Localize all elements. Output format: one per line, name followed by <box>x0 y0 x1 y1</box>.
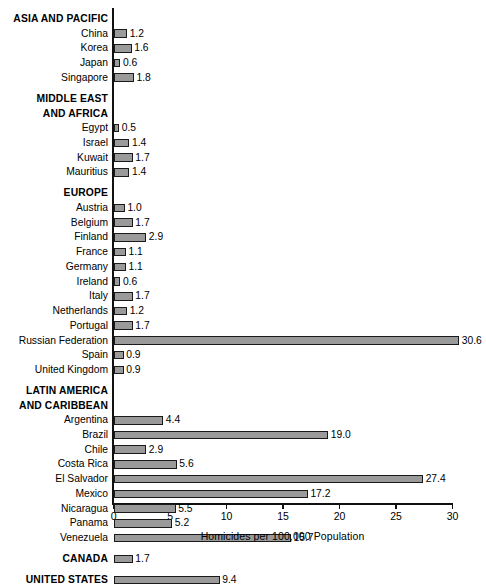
bar-value-label: 9.4 <box>222 574 236 586</box>
bar-value-label: 0.5 <box>122 122 136 134</box>
category-label: El Salvador <box>55 473 108 485</box>
bar-row: El Salvador27.4 <box>0 472 486 487</box>
bar-row: Costa Rica5.6 <box>0 457 486 472</box>
category-label: Finland <box>74 231 108 243</box>
bar-row: Netherlands1.2 <box>0 304 486 319</box>
bar-value-label: 1.7 <box>135 217 149 229</box>
group-heading: LATIN AMERICA <box>26 385 108 397</box>
bar-row: UNITED STATES9.4 <box>0 573 486 588</box>
category-label: Mauritius <box>66 166 108 178</box>
bar-value-label: 5.6 <box>179 458 193 470</box>
bar-row: Argentina4.4 <box>0 413 486 428</box>
category-label: France <box>76 246 108 258</box>
bar-value-label: 1.1 <box>129 246 143 258</box>
bar <box>114 168 130 177</box>
category-label: Germany <box>66 261 108 273</box>
bar <box>114 218 133 227</box>
bar-value-label: 2.9 <box>149 231 163 243</box>
bar-value-label: 1.7 <box>135 320 149 332</box>
category-label: Egypt <box>82 122 108 134</box>
bar-row: Russian Federation30.6 <box>0 334 486 349</box>
category-label: United Kingdom <box>35 364 108 376</box>
category-label: UNITED STATES <box>26 574 108 586</box>
bar <box>114 73 134 82</box>
bar <box>114 248 126 257</box>
bar-value-label: 1.7 <box>135 553 149 565</box>
bar <box>114 504 176 513</box>
category-label: Venezuela <box>60 532 108 544</box>
bar <box>114 204 125 213</box>
bar-value-label: 0.9 <box>126 349 140 361</box>
bar-value-label: 1.4 <box>132 166 146 178</box>
group-heading: AND AFRICA <box>43 108 108 120</box>
bar <box>114 29 128 38</box>
category-label: Brazil <box>82 429 108 441</box>
group-heading: AND CARIBBEAN <box>19 400 108 412</box>
bar <box>114 153 133 162</box>
bar-value-label: 1.1 <box>129 261 143 273</box>
bar-value-label: 1.0 <box>127 202 141 214</box>
bar <box>114 44 132 53</box>
category-label: Israel <box>83 137 108 149</box>
bar <box>114 351 124 360</box>
bar-row: Portugal1.7 <box>0 319 486 334</box>
bar-value-label: 4.4 <box>166 414 180 426</box>
bar <box>114 431 329 440</box>
category-label: China <box>81 28 108 40</box>
bar <box>114 307 128 316</box>
bar-row: CANADA1.7 <box>0 552 486 567</box>
bar-row: Korea1.6 <box>0 41 486 56</box>
category-label: Nicaragua <box>61 503 108 515</box>
bar-row: Mexico17.2 <box>0 487 486 502</box>
group-heading: EUROPE <box>64 187 108 199</box>
group-heading: MIDDLE EAST <box>37 93 108 105</box>
bar-value-label: 1.2 <box>130 305 144 317</box>
bar-row: Chile2.9 <box>0 443 486 458</box>
bar-row: Nicaragua5.5 <box>0 502 486 517</box>
category-label: Singapore <box>61 72 108 84</box>
bar-value-label: 27.4 <box>426 473 446 485</box>
x-axis-title: Homicides per 100,000 Population <box>112 530 453 542</box>
bar <box>114 366 124 375</box>
bar <box>114 124 120 133</box>
bar-row: Kuwait1.7 <box>0 151 486 166</box>
bar <box>114 292 133 301</box>
bar <box>114 519 173 528</box>
category-label: Argentina <box>64 414 108 426</box>
bar <box>114 445 147 454</box>
bar-value-label: 1.8 <box>136 72 150 84</box>
bar-value-label: 1.4 <box>132 137 146 149</box>
category-label: Kuwait <box>77 152 108 164</box>
category-label: CANADA <box>62 553 108 565</box>
bar-row: China1.2 <box>0 27 486 42</box>
bar <box>114 277 121 286</box>
bar-value-label: 1.2 <box>130 28 144 40</box>
bar-value-label: 1.7 <box>135 152 149 164</box>
bar-value-label: 5.5 <box>178 503 192 515</box>
bar <box>114 321 133 330</box>
category-label: Japan <box>80 57 108 69</box>
bar <box>114 233 147 242</box>
bar-row: France1.1 <box>0 245 486 260</box>
bar-value-label: 0.6 <box>123 57 137 69</box>
bar-value-label: 30.6 <box>462 335 482 347</box>
bar-value-label: 17.2 <box>310 488 330 500</box>
bar-row: Germany1.1 <box>0 260 486 275</box>
bar-row: Ireland0.6 <box>0 275 486 290</box>
category-label: Portugal <box>70 320 108 332</box>
category-label: Spain <box>82 349 108 361</box>
bar-value-label: 5.2 <box>175 517 189 529</box>
bar <box>114 490 308 499</box>
category-label: Chile <box>85 444 108 456</box>
category-label: Austria <box>76 202 108 214</box>
category-label: Netherlands <box>52 305 108 317</box>
bar-value-label: 2.9 <box>149 444 163 456</box>
bar-row: Austria1.0 <box>0 201 486 216</box>
category-label: Panama <box>70 517 108 529</box>
bar <box>114 460 177 469</box>
bar-row: Egypt0.5 <box>0 121 486 136</box>
bar-row: Panama5.2 <box>0 516 486 531</box>
bar <box>114 576 220 585</box>
category-label: Korea <box>81 42 108 54</box>
category-label: Costa Rica <box>58 458 108 470</box>
